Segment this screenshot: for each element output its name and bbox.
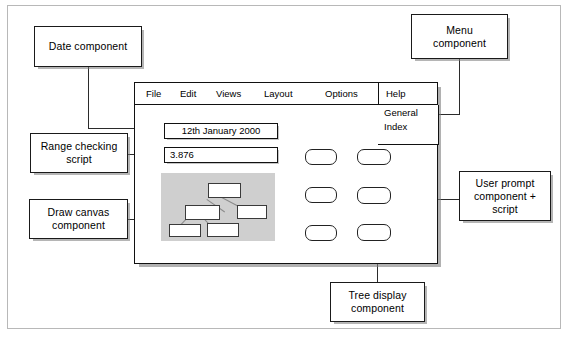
prompt-button-3[interactable] [305,187,337,203]
component-diagram: File Edit Views Layout Options Help Gene… [0,0,576,337]
tree-node-leaf-1[interactable] [169,224,201,237]
range-field-value: 3.876 [170,149,194,161]
callout-draw-label: Draw canvas component [48,206,110,232]
menu-item-file[interactable]: File [146,88,161,100]
callout-tree-label: Tree display component [348,289,406,315]
callout-user-prompt-label: User prompt component + script [474,177,536,216]
menu-divider [378,83,379,105]
tree-node-left[interactable] [185,205,220,220]
tree-node-root[interactable] [208,183,241,198]
callout-menu-label: Menu component [433,24,486,50]
callout-draw-canvas-component: Draw canvas component [29,199,128,239]
callout-user-prompt-component: User prompt component + script [459,171,551,221]
help-dropdown-menu: General Index [378,105,439,145]
tree-node-leaf-2[interactable] [207,223,239,237]
callout-date-label: Date component [49,40,127,53]
prompt-button-1[interactable] [305,149,337,165]
range-field[interactable]: 3.876 [164,147,278,163]
help-menu-item-general[interactable]: General [378,105,438,119]
prompt-button-5[interactable] [305,225,337,241]
connector-menu-vertical [459,59,460,115]
prompt-button-4[interactable] [357,187,391,204]
callout-date-component: Date component [34,26,142,67]
tree-node-right[interactable] [237,205,267,219]
prompt-button-2[interactable] [357,149,391,165]
prompt-button-6[interactable] [357,224,391,241]
date-field-value: 12th January 2000 [182,125,261,137]
date-field[interactable]: 12th January 2000 [164,123,278,139]
menu-item-edit[interactable]: Edit [180,88,196,100]
callout-tree-display-component: Tree display component [330,282,425,322]
help-menu-item-index[interactable]: Index [378,119,438,133]
menu-item-options[interactable]: Options [325,88,358,100]
menu-item-views[interactable]: Views [216,88,241,100]
menu-item-layout[interactable]: Layout [264,88,293,100]
menu-bar: File Edit Views Layout Options Help [135,83,437,105]
connector-date-vertical [88,67,89,129]
menu-item-help[interactable]: Help [386,88,406,100]
callout-range-label: Range checking script [41,140,118,166]
application-window: File Edit Views Layout Options Help Gene… [134,82,438,264]
callout-range-checking-script: Range checking script [30,133,128,173]
draw-canvas[interactable] [161,173,275,241]
callout-menu-component: Menu component [411,14,508,59]
